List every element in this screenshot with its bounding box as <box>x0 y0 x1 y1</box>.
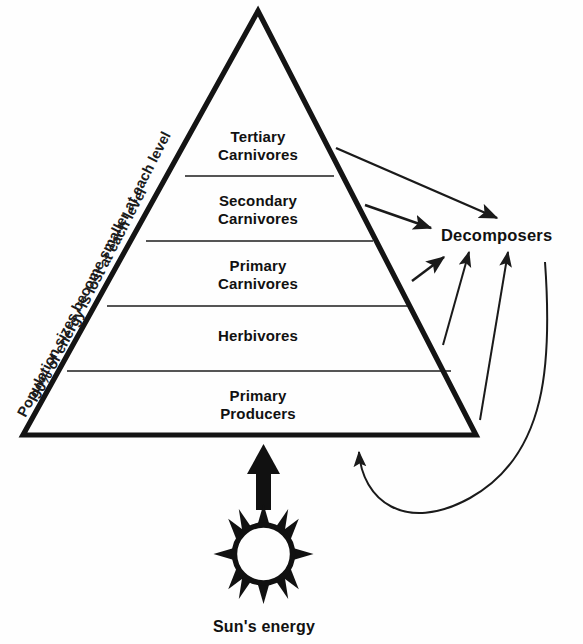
sun-energy-caption: Sun's energy <box>185 618 343 636</box>
ecological-pyramid-diagram: Tertiary Carnivores Secondary Carnivores… <box>0 0 583 644</box>
tier-label-primary-carnivores: Primary Carnivores <box>178 257 338 292</box>
sun-energy-arrow <box>247 444 280 510</box>
tier-label-herbivores: Herbivores <box>178 327 338 345</box>
arrow-primary-carnivores-to-decomposers <box>412 257 444 281</box>
diagram-canvas <box>0 0 583 644</box>
arrow-secondary-to-decomposers <box>365 205 431 228</box>
arrow-producers-to-decomposers <box>480 252 508 420</box>
tier-label-tertiary-carnivores: Tertiary Carnivores <box>178 128 338 163</box>
arrows-to-decomposers <box>336 148 508 420</box>
tier-label-secondary-carnivores: Secondary Carnivores <box>178 192 338 227</box>
decomposers-label: Decomposers <box>441 226 552 245</box>
sun-icon <box>214 504 314 604</box>
arrow-herbivores-to-decomposers <box>443 252 469 345</box>
tier-label-primary-producers: Primary Producers <box>178 387 338 422</box>
